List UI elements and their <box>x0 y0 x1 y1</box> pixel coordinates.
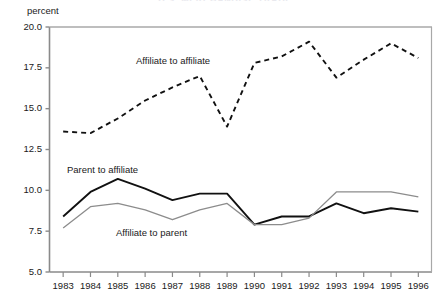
chart-figure: U.S. MERCHANDISE TRADE percent 20.017.51… <box>0 0 441 300</box>
series-annotation-label: Affiliate to parent <box>116 227 187 238</box>
y-tick-label: 12.5 <box>8 143 42 154</box>
y-tick-label: 10.0 <box>8 184 42 195</box>
series-annotation-label: Affiliate to affiliate <box>136 55 210 66</box>
series-line <box>63 42 418 133</box>
y-tick-label: 7.5 <box>8 225 42 236</box>
series-line <box>63 179 418 225</box>
y-tick-label: 5.0 <box>8 266 42 277</box>
x-tick-label: 1996 <box>401 280 435 291</box>
series-annotation-label: Parent to affiliate <box>67 164 138 175</box>
y-tick-label: 15.0 <box>8 102 42 113</box>
plot-area <box>0 0 441 300</box>
series-paths <box>63 42 418 228</box>
y-tick-label: 17.5 <box>8 61 42 72</box>
y-tick-label: 20.0 <box>8 21 42 32</box>
